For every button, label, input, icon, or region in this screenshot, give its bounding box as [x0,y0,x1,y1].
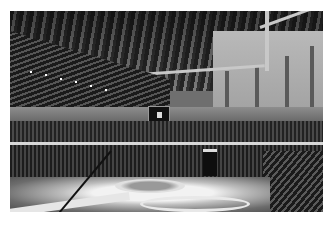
arena-light [45,74,47,76]
entrance-tunnel [203,149,217,176]
roof-column [265,11,269,71]
arena-light [105,89,107,91]
arena-light [30,71,32,73]
middle-seating [10,121,323,143]
arena-light [60,78,62,80]
arena-light [75,81,77,83]
scoreboard-screen [148,106,170,122]
central-stage [115,179,185,193]
floor-ring-marking [140,196,250,212]
right-lower-seating [263,151,323,212]
arena-photo [10,11,323,212]
arena-light [90,85,92,87]
